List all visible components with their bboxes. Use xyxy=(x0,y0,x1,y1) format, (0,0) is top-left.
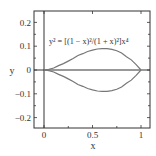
x-tick-label: 0 xyxy=(42,130,47,140)
equation-annotation: y² = [(1 − x)²/(1 + x)²]x⁴ xyxy=(49,37,129,46)
y-tick-label: 0.1 xyxy=(20,41,31,51)
x-tick-label: 0.5 xyxy=(87,130,99,140)
y-tick-label: 0.2 xyxy=(20,18,31,28)
y-tick-label: −0.2 xyxy=(15,113,31,123)
chart: 0.2 0.1 0 −0.1 −0.2 0 0.5 1 x y y² = [(1… xyxy=(0,0,156,156)
upper-branch-curve xyxy=(44,49,141,70)
x-axis-label: x xyxy=(91,140,96,151)
y-tick-label: 0 xyxy=(27,65,32,75)
x-tick-label: 1 xyxy=(139,130,144,140)
y-axis-label: y xyxy=(10,65,15,76)
y-tick-label: −0.1 xyxy=(15,89,31,99)
lower-branch-curve xyxy=(44,70,141,91)
